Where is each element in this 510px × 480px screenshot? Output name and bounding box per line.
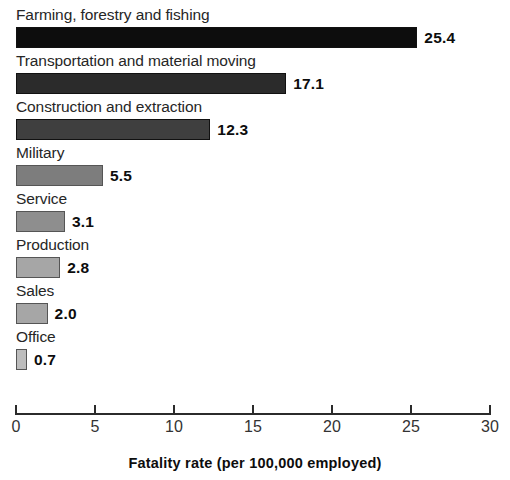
- category-label: Military: [16, 144, 64, 162]
- value-label: 3.1: [72, 211, 94, 232]
- bar-line: 17.1: [16, 73, 324, 94]
- bar: [16, 165, 103, 186]
- bar-line: 12.3: [16, 119, 248, 140]
- table-row: Transportation and material moving 17.1: [0, 52, 510, 98]
- table-row: Military 5.5: [0, 144, 510, 190]
- value-label: 25.4: [424, 27, 455, 48]
- bar: [16, 349, 27, 370]
- bar-line: 5.5: [16, 165, 132, 186]
- bar: [16, 257, 60, 278]
- value-label: 2.8: [67, 257, 89, 278]
- axis-tick-label: 10: [165, 418, 183, 436]
- axis-tick: [252, 405, 254, 415]
- value-label: 0.7: [34, 349, 56, 370]
- bar-line: 2.0: [16, 303, 77, 324]
- bar-line: 25.4: [16, 27, 455, 48]
- value-label: 17.1: [293, 73, 324, 94]
- axis-tick: [331, 405, 333, 415]
- axis-title: Fatality rate (per 100,000 employed): [0, 455, 510, 471]
- bar: [16, 73, 286, 94]
- bar: [16, 211, 65, 232]
- table-row: Sales 2.0: [0, 282, 510, 328]
- axis-tick: [173, 405, 175, 415]
- x-axis: 051015202530: [0, 404, 510, 450]
- axis-tick: [489, 405, 491, 415]
- axis-tick-label: 5: [91, 418, 100, 436]
- axis-tick-label: 20: [323, 418, 341, 436]
- table-row: Production 2.8: [0, 236, 510, 282]
- axis-tick: [410, 405, 412, 415]
- value-label: 2.0: [55, 303, 77, 324]
- chart-plot-area: Farming, forestry and fishing 25.4 Trans…: [0, 6, 510, 396]
- table-row: Construction and extraction 12.3: [0, 98, 510, 144]
- table-row: Service 3.1: [0, 190, 510, 236]
- table-row: Farming, forestry and fishing 25.4: [0, 6, 510, 52]
- bar: [16, 27, 417, 48]
- category-label: Farming, forestry and fishing: [16, 6, 210, 24]
- axis-tick-label: 30: [481, 418, 499, 436]
- axis-tick-label: 0: [12, 418, 21, 436]
- value-label: 5.5: [110, 165, 132, 186]
- axis-tick-label: 15: [244, 418, 262, 436]
- category-label: Construction and extraction: [16, 98, 202, 116]
- fatality-rate-bar-chart: Farming, forestry and fishing 25.4 Trans…: [0, 0, 510, 480]
- category-label: Sales: [16, 282, 54, 300]
- bar-line: 2.8: [16, 257, 89, 278]
- category-label: Office: [16, 328, 56, 346]
- bar: [16, 303, 48, 324]
- axis-tick: [15, 405, 17, 415]
- table-row: Office 0.7: [0, 328, 510, 374]
- axis-tick: [94, 405, 96, 415]
- bar-line: 0.7: [16, 349, 56, 370]
- axis-tick-label: 25: [402, 418, 420, 436]
- category-label: Transportation and material moving: [16, 52, 256, 70]
- value-label: 12.3: [217, 119, 248, 140]
- bar: [16, 119, 210, 140]
- category-label: Production: [16, 236, 89, 254]
- category-label: Service: [16, 190, 67, 208]
- bar-line: 3.1: [16, 211, 94, 232]
